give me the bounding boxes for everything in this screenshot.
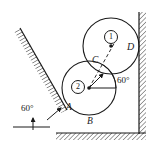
statics-diagram: 1 2 D C A B 60° 60° (0, 0, 159, 152)
incline-angle-pointer (47, 108, 61, 120)
angle-label-incline: 60° (21, 104, 34, 113)
diagram-canvas (0, 0, 159, 152)
vertical-wall-hatching (139, 12, 146, 134)
cylinder-2-badge: 2 (71, 80, 85, 94)
ground-wall (56, 133, 146, 140)
label-D: D (127, 42, 134, 52)
cylinder-1-badge: 1 (104, 30, 118, 44)
angle-label-center: 60° (117, 76, 130, 85)
label-B: B (87, 117, 93, 127)
angle-arc-center (103, 65, 117, 88)
inclined-wall-hatching (14, 28, 67, 113)
inclined-wall (14, 28, 67, 113)
inclined-wall-surface (20, 28, 67, 110)
label-A: A (66, 103, 72, 113)
ground-hatching (56, 133, 146, 140)
vertical-wall (139, 12, 146, 134)
label-C: C (92, 56, 98, 66)
